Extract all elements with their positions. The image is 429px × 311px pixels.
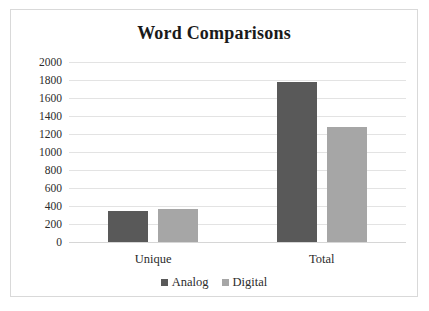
x-axis-tick-label: Total (309, 252, 335, 267)
y-axis-tick-label: 1200 (39, 128, 62, 140)
legend-item-analog: Analog (161, 275, 209, 290)
x-axis-tick-label: Unique (135, 252, 172, 267)
legend-swatch-icon (222, 279, 229, 286)
chart-title: Word Comparisons (11, 23, 417, 44)
y-axis-tick-label: 1800 (39, 74, 62, 86)
bar-digital-unique (158, 209, 198, 242)
y-axis-tick-label: 1600 (39, 92, 62, 104)
gridline (69, 116, 406, 117)
plot-area: 2000180016001400120010008006004002000Uni… (69, 62, 406, 242)
bar-analog-total (277, 82, 317, 242)
gridline (69, 98, 406, 99)
y-axis-tick-label: 1400 (39, 110, 62, 122)
y-axis-tick-label: 800 (45, 164, 62, 176)
y-axis-tick-label: 600 (45, 182, 62, 194)
legend-swatch-icon (161, 279, 168, 286)
bar-digital-total (327, 127, 367, 242)
legend-item-digital: Digital (222, 275, 268, 290)
legend-label: Analog (172, 275, 209, 290)
gridline (69, 62, 406, 63)
gridline (69, 242, 406, 243)
y-axis-tick-label: 0 (56, 236, 62, 248)
bar-analog-unique (108, 211, 148, 242)
chart-legend: AnalogDigital (11, 275, 417, 290)
y-axis-tick-label: 1000 (39, 146, 62, 158)
chart-container: Word Comparisons 20001800160014001200100… (10, 9, 418, 297)
y-axis-tick-label: 200 (45, 218, 62, 230)
y-axis-tick-label: 400 (45, 200, 62, 212)
gridline (69, 80, 406, 81)
legend-label: Digital (233, 275, 268, 290)
y-axis-tick-label: 2000 (39, 56, 62, 68)
